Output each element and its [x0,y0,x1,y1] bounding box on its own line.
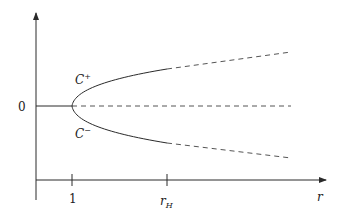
bifurcation-diagram: 0 C+ C− 1 rH r [0,0,344,222]
tick-label-rH: rH [160,194,174,210]
lower-branch-unstable [167,143,291,158]
x-axis-label: r [317,190,324,204]
tick-label-1: 1 [69,192,77,206]
lower-branch-stable [72,106,167,143]
zero-label: 0 [18,100,26,114]
lower-branch-label: C− [75,126,91,141]
upper-branch-unstable [167,52,291,69]
upper-branch-label: C+ [75,72,91,87]
